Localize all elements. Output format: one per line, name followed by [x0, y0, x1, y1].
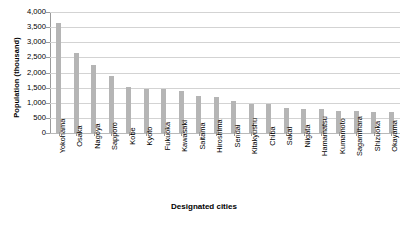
x-axis-tick-label: Kyoto	[146, 127, 154, 146]
x-axis-tick-label: Osaka	[76, 125, 84, 146]
x-axis-tick-label: Nagoya	[94, 123, 102, 148]
plot-area	[50, 12, 400, 133]
x-label-slot: Hiroshima	[208, 136, 226, 194]
bar-series	[50, 12, 400, 133]
bar-slot	[260, 12, 278, 133]
x-label-slot: Kumamoto	[330, 136, 348, 194]
y-axis-tick-label: 0	[2, 129, 46, 137]
x-axis-tick-label: Hiroshima	[216, 119, 224, 152]
x-label-slot: Kawasaki	[173, 136, 191, 194]
bar	[126, 87, 131, 133]
y-axis-tick-label: 500	[2, 114, 46, 122]
x-label-slot: Yokohama	[50, 136, 68, 194]
y-axis-tick-label: 2,000	[2, 69, 46, 77]
x-axis-tick-label: Kobe	[129, 127, 137, 144]
bar-slot	[190, 12, 208, 133]
bar	[56, 23, 61, 133]
x-axis-tick-label: Saitama	[199, 122, 207, 149]
x-axis-tick-label: Kumamoto	[339, 118, 347, 154]
x-axis-tick-label: Chiba	[269, 126, 277, 145]
x-axis-tick-label: Yokohama	[59, 119, 67, 154]
bar-slot	[138, 12, 156, 133]
bar-slot	[348, 12, 366, 133]
bar-slot	[278, 12, 296, 133]
y-axis-labels: 4,0003,5003,0002,5002,0001,5001,0005000	[0, 0, 46, 145]
x-label-slot: Kyoto	[138, 136, 156, 194]
bar-slot	[225, 12, 243, 133]
bar-slot	[155, 12, 173, 133]
x-label-slot: Saitama	[190, 136, 208, 194]
x-axis-tick-label: Sapporo	[111, 122, 119, 150]
x-label-slot: Nagoya	[85, 136, 103, 194]
x-axis-tick-label: Sendai	[234, 124, 242, 147]
bar-slot	[243, 12, 261, 133]
x-axis-tick-label: Fukuoka	[164, 122, 172, 150]
bar-slot	[173, 12, 191, 133]
x-axis-tick-label: Okayama	[391, 120, 399, 152]
x-label-slot: Kitakyushu	[243, 136, 261, 194]
x-label-slot: Sapporo	[103, 136, 121, 194]
bar-slot	[50, 12, 68, 133]
x-label-slot: Sendai	[225, 136, 243, 194]
y-axis-tick-label: 3,000	[2, 38, 46, 46]
x-label-slot: Sakai	[278, 136, 296, 194]
x-axis-title: Designated cities	[0, 202, 408, 211]
x-label-slot: Fukuoka	[155, 136, 173, 194]
y-axis-tick-label: 4,000	[2, 8, 46, 16]
bar-slot	[330, 12, 348, 133]
x-label-slot: Hamamatsu	[313, 136, 331, 194]
x-axis-labels: YokohamaOsakaNagoyaSapporoKobeKyotoFukuo…	[50, 136, 400, 194]
bar-slot	[208, 12, 226, 133]
bar-slot	[103, 12, 121, 133]
x-label-slot: Chiba	[260, 136, 278, 194]
y-axis-tick-label: 2,500	[2, 53, 46, 61]
bar-slot	[295, 12, 313, 133]
bar-slot	[365, 12, 383, 133]
x-axis-tick-label: Sakai	[286, 127, 294, 146]
x-label-slot: Kobe	[120, 136, 138, 194]
bar-slot	[85, 12, 103, 133]
bar	[74, 53, 79, 133]
x-axis-tick-label: Kitakyushu	[251, 118, 259, 154]
x-axis-tick-label: Niigata	[304, 124, 312, 147]
y-axis-tick-label: 1,000	[2, 99, 46, 107]
bar-slot	[68, 12, 86, 133]
x-label-slot: Osaka	[68, 136, 86, 194]
x-axis-tick-label: Hamamatsu	[321, 116, 329, 156]
bar-slot	[313, 12, 331, 133]
bar-slot	[383, 12, 401, 133]
x-label-slot: Okayama	[383, 136, 401, 194]
x-axis-tick-label: Sagamihara	[356, 116, 364, 156]
y-axis-tick-label: 1,500	[2, 84, 46, 92]
y-axis-tick-label: 3,500	[2, 23, 46, 31]
x-axis-tick-label: Shizuoka	[374, 121, 382, 151]
x-label-slot: Sagamihara	[348, 136, 366, 194]
x-label-slot: Niigata	[295, 136, 313, 194]
x-label-slot: Shizuoka	[365, 136, 383, 194]
bar-slot	[120, 12, 138, 133]
x-axis-tick-label: Kawasaki	[181, 120, 189, 152]
gridline	[50, 133, 400, 134]
bar-chart: Population (thousand) 4,0003,5003,0002,5…	[0, 0, 408, 226]
